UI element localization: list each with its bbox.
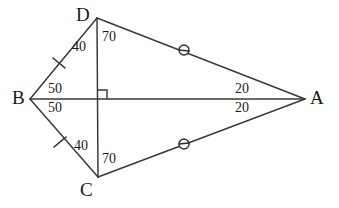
vertex-label-B: B (12, 88, 25, 107)
angle-label-DCA: 70 (102, 152, 116, 166)
angle-label-BAC: 20 (235, 101, 249, 115)
tick-mark-BC (54, 137, 66, 147)
circle-mark-DA (179, 45, 189, 55)
geometry-diagram: D B C A 40 70 50 50 20 20 40 70 (0, 0, 339, 208)
angle-label-BCD: 40 (74, 139, 88, 153)
edge-DA (97, 18, 305, 99)
circle-bar (179, 143, 189, 144)
vertex-label-C: C (80, 180, 93, 199)
circle-bar (179, 50, 189, 51)
circle-mark-CA (179, 139, 189, 149)
edge-AC (98, 99, 305, 177)
diagonal-DC (97, 18, 98, 177)
angle-label-CDA: 70 (102, 30, 116, 44)
angle-label-BDC: 40 (72, 40, 86, 54)
tick-slash (54, 137, 66, 147)
angle-label-ABC: 50 (48, 101, 62, 115)
right-angle-marker (98, 90, 107, 99)
angle-label-DBA: 50 (48, 82, 62, 96)
vertex-label-A: A (310, 88, 324, 107)
vertex-label-D: D (76, 5, 90, 24)
edge-BD (30, 18, 97, 99)
angle-label-DAB: 20 (235, 82, 249, 96)
